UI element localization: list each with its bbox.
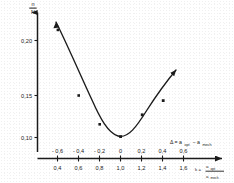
delta-tick-label-2: - 0,2 <box>94 148 105 154</box>
plot-svg: 0,20 0,15 0,10 n N - 0,6 - 0,4 - 0,2 <box>0 0 234 183</box>
y-tick-label-1: 0,15 <box>21 93 32 99</box>
delta-axis-title-minus: − a <box>193 139 200 145</box>
data-point-markers <box>57 29 165 138</box>
delta-tick-label-5: 0,4 <box>159 148 167 154</box>
figure-plot-n-over-N: 0,20 0,15 0,10 n N - 0,6 - 0,4 - 0,2 <box>0 0 234 183</box>
delta-tick-label-1: - 0,4 <box>73 148 84 154</box>
data-point <box>119 135 122 138</box>
delta-tick-label-0: - 0,6 <box>52 148 63 154</box>
data-point <box>98 123 101 126</box>
data-point <box>77 94 80 97</box>
delta-tick-label-4: 0,2 <box>138 148 146 154</box>
data-point <box>57 29 60 32</box>
curve-arrowhead-left <box>53 22 59 28</box>
k-axis-title-denominator-sub: mech <box>211 176 219 180</box>
y-axis: 0,20 0,15 0,10 <box>21 13 37 153</box>
y-axis-title-numerator: n <box>32 1 35 7</box>
k-tick-label-3: 1,0 <box>117 165 125 171</box>
k-tick-label-4: 1,2 <box>138 165 146 171</box>
data-point <box>141 113 144 116</box>
delta-axis-title-sub-mech: mech <box>203 143 212 147</box>
y-axis-title: n N <box>29 1 36 15</box>
k-axis-title-denominator: a <box>206 174 209 179</box>
curve-path <box>56 22 176 136</box>
data-point <box>162 99 165 102</box>
k-axis-title: k = a opt a mech <box>195 164 224 180</box>
k-axis-ticklabels: 0,4 0,6 0,8 1,0 1,2 1,4 1,6 <box>54 165 188 171</box>
data-curve <box>53 22 176 136</box>
y-tick-label-0: 0,20 <box>21 38 32 44</box>
delta-tick-label-3: 0 <box>119 148 122 154</box>
delta-tick-label-6: 0,6 <box>180 148 188 154</box>
k-tick-label-6: 1,6 <box>180 165 188 171</box>
k-tick-label-2: 0,8 <box>96 165 104 171</box>
delta-axis-title-sub-opt: opt <box>185 143 190 147</box>
k-tick-label-1: 0,6 <box>75 165 83 171</box>
y-axis-title-denominator: N <box>31 9 35 15</box>
k-axis-title-numerator: a <box>206 164 209 169</box>
delta-axis-ticklabels: - 0,6 - 0,4 - 0,2 0 0,2 0,4 0,6 <box>52 148 187 154</box>
k-axis-title-numerator-sub: opt <box>211 167 216 171</box>
delta-axis-title-main: Δ = a <box>170 139 182 145</box>
k-tick-label-0: 0,4 <box>54 165 62 171</box>
y-tick-label-2: 0,10 <box>21 135 32 141</box>
k-axis-title-main: k = <box>195 167 201 172</box>
delta-axis-title: Δ = a opt − a mech <box>170 139 212 146</box>
k-tick-label-5: 1,4 <box>159 165 167 171</box>
x-axis <box>38 156 223 162</box>
